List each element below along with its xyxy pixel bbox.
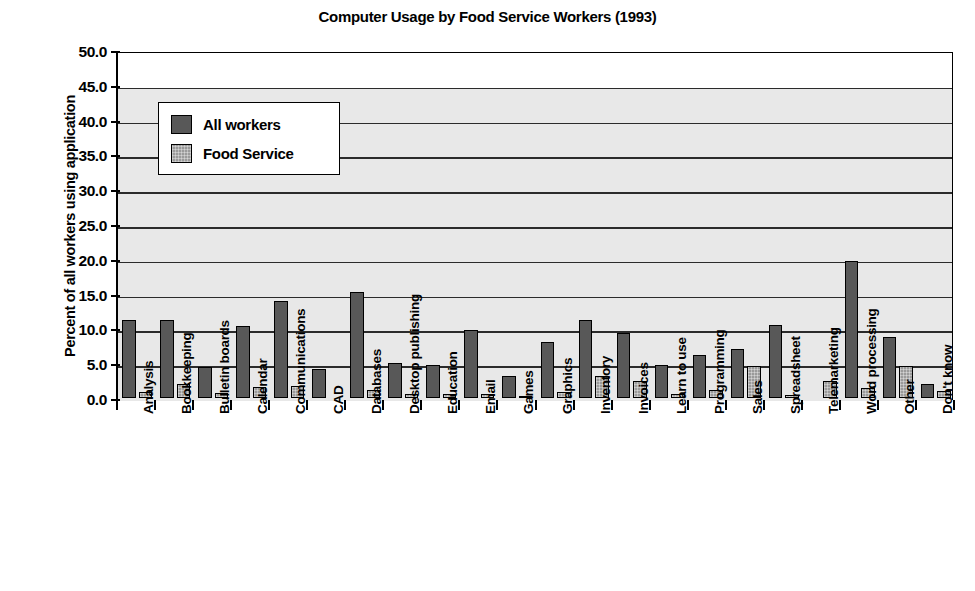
bar-all-workers	[617, 333, 631, 398]
bar-group	[537, 53, 575, 398]
y-axis-tick-label: 15.0	[45, 287, 107, 305]
bar-all-workers	[426, 365, 440, 398]
x-axis-label: Email	[483, 379, 498, 414]
legend-item-all-workers: All workers	[171, 110, 339, 139]
y-axis-tick-label: 35.0	[45, 147, 107, 165]
bar-all-workers	[579, 320, 593, 398]
bar-all-workers	[921, 384, 935, 398]
bar-group	[613, 53, 651, 398]
legend: All workers Food Service	[158, 102, 340, 175]
y-axis-tick-mark	[111, 51, 120, 53]
x-axis-label: Calendar	[255, 359, 270, 414]
x-axis-label: Invoices	[636, 362, 651, 414]
bar-all-workers	[122, 320, 136, 398]
y-axis-tick-label: 45.0	[45, 78, 107, 96]
x-axis-label: Bulletin boards	[217, 320, 232, 414]
y-axis-tick-mark	[111, 121, 120, 123]
bar-all-workers	[845, 261, 859, 398]
y-axis-tick-mark	[111, 364, 120, 366]
bar-all-workers	[502, 376, 516, 398]
y-axis-tick-label: 10.0	[45, 321, 107, 339]
y-axis-tick-label: 0.0	[45, 391, 107, 409]
y-axis-tick-mark	[111, 295, 120, 297]
chart-title: Computer Usage by Food Service Workers (…	[0, 8, 975, 25]
bar-group	[346, 53, 384, 398]
x-axis-label: CAD	[331, 386, 346, 414]
x-axis-label: Analysis	[141, 361, 156, 414]
bar-all-workers	[312, 369, 326, 398]
y-axis-tick-mark	[111, 155, 120, 157]
legend-label-food-service: Food Service	[203, 145, 294, 162]
x-axis-label: Sales	[750, 380, 765, 414]
x-axis-label: Programming	[712, 330, 727, 414]
bar-all-workers	[464, 330, 478, 398]
legend-label-all-workers: All workers	[203, 116, 281, 133]
bar-all-workers	[274, 301, 288, 398]
chart-container: Computer Usage by Food Service Workers (…	[0, 0, 975, 591]
y-axis-tick-label: 30.0	[45, 182, 107, 200]
bar-all-workers	[541, 342, 555, 398]
bar-all-workers	[693, 355, 707, 398]
y-axis-tick-mark	[111, 260, 120, 262]
bar-group	[460, 53, 498, 398]
x-axis-label: Bookkeeping	[179, 333, 194, 414]
y-axis-tick-label: 25.0	[45, 217, 107, 235]
x-axis-label: Word processing	[864, 308, 879, 414]
x-axis-label: Inventory	[598, 356, 613, 414]
bar-all-workers	[883, 337, 897, 398]
bar-group	[575, 53, 613, 398]
x-axis-label: Telemarketing	[826, 327, 841, 414]
y-axis-tick-label: 50.0	[45, 43, 107, 61]
x-axis-label: Databases	[369, 349, 384, 414]
legend-swatch-all-workers	[171, 115, 192, 134]
bar-group	[422, 53, 460, 398]
bar-group	[118, 53, 156, 398]
y-axis-tick-label: 5.0	[45, 356, 107, 374]
x-axis-label: Desktop publishing	[407, 294, 422, 414]
bar-all-workers	[160, 320, 174, 398]
x-axis-label: Don't know	[940, 345, 955, 414]
bar-all-workers	[388, 363, 402, 398]
bar-group	[879, 53, 917, 398]
bar-all-workers	[731, 349, 745, 398]
y-axis-tick-label: 40.0	[45, 113, 107, 131]
y-axis-tick-mark	[111, 190, 120, 192]
x-axis-tick-mark	[116, 400, 118, 410]
x-axis-label: Education	[445, 351, 460, 414]
y-axis-tick-label: 20.0	[45, 252, 107, 270]
x-axis-label: Other	[902, 379, 917, 414]
x-axis-label: Learn to use	[674, 337, 689, 414]
x-axis-label: Communications	[293, 309, 308, 414]
bar-all-workers	[769, 325, 783, 398]
y-axis-tick-mark	[111, 329, 120, 331]
y-axis-tick-mark	[111, 225, 120, 227]
bar-all-workers	[236, 326, 250, 398]
x-axis-label: Spreadsheet	[788, 336, 803, 414]
bar-group	[727, 53, 765, 398]
bar-all-workers	[350, 292, 364, 398]
bar-all-workers	[655, 365, 669, 398]
bar-all-workers	[198, 367, 212, 398]
legend-swatch-food-service	[171, 144, 192, 163]
bar-group	[498, 53, 536, 398]
x-axis-label: Games	[521, 370, 536, 414]
legend-item-food-service: Food Service	[171, 139, 339, 168]
x-axis-label: Graphics	[560, 358, 575, 414]
y-axis-tick-mark	[111, 86, 120, 88]
